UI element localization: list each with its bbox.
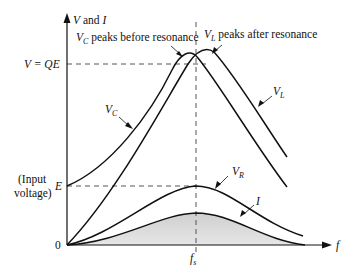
e-level-label: E — [54, 180, 62, 192]
x-axis-arrow-icon — [322, 242, 332, 249]
vc-curve — [67, 53, 287, 187]
vl-peak-annotation: VL peaks after resonance — [204, 28, 317, 43]
vl-label: VL — [273, 85, 285, 100]
resonance-diagram: V and I f 0 fs V = QE E (Input voltage) … — [0, 0, 355, 271]
vr-arrow-icon — [215, 181, 221, 189]
fs-tick-label: fs — [190, 252, 196, 267]
y-axis-arrow-icon — [64, 13, 71, 23]
input-voltage-label-line2: voltage) — [14, 187, 52, 200]
y-axis-label: V and I — [73, 14, 107, 26]
i-arrow-icon — [240, 210, 246, 217]
vr-label: VR — [232, 165, 244, 180]
vc-label: VC — [105, 103, 118, 118]
i-label: I — [255, 195, 261, 207]
vl-arrow-icon — [258, 100, 264, 107]
origin-label: 0 — [55, 239, 61, 251]
x-axis-label: f — [336, 239, 341, 252]
vc-peak-annotation: VC peaks before resonance — [76, 31, 199, 46]
current-area — [67, 213, 305, 245]
input-voltage-label-line1: (Input — [18, 173, 47, 186]
qe-level-label: V = QE — [24, 58, 60, 70]
